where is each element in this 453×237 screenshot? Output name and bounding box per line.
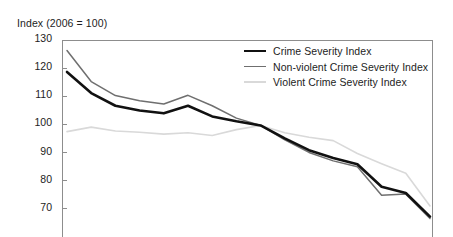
y-axis: 130120110100908070 [0,0,62,237]
legend-label-non-violent: Non-violent Crime Severity Index [273,61,428,73]
chart-legend: Crime Severity Index Non-violent Crime S… [244,45,428,88]
y-axis-tick-label: 110 [35,88,52,100]
line-swatch-icon-violent [244,81,266,82]
y-axis-tick-label: 130 [34,32,52,44]
chart-figure: Index (2006 = 100) 130120110100908070 Cr… [0,0,453,237]
y-axis-tick-label: 90 [40,145,52,157]
line-swatch-icon-crime-severity [244,50,266,53]
legend-label-violent: Violent Crime Severity Index [273,76,407,88]
legend-label-crime-severity: Crime Severity Index [273,45,371,57]
legend-item-violent-crime-severity-index: Violent Crime Severity Index [244,76,428,88]
line-swatch-icon-non-violent [244,66,266,68]
y-axis-tick-label: 70 [40,201,52,213]
series-line-violent-crime-severity-index [67,125,430,205]
series-line-crime-severity-index [67,72,430,217]
y-axis-tick-label: 120 [34,60,52,72]
legend-item-crime-severity-index: Crime Severity Index [244,45,428,57]
legend-item-non-violent-crime-severity-index: Non-violent Crime Severity Index [244,61,428,73]
y-axis-tick-label: 100 [34,116,52,128]
y-axis-tick-label: 80 [40,173,52,185]
